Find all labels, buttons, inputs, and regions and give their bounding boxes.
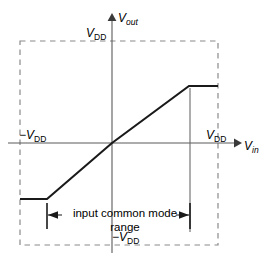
input-common-mode-range-label: input common mode range bbox=[61, 207, 189, 234]
vdd-right-subscript: DD bbox=[214, 134, 227, 144]
axis-arrow-right-icon bbox=[234, 139, 242, 148]
vdd-top-subscript: DD bbox=[94, 32, 107, 42]
vdd-top-symbol: V bbox=[86, 26, 94, 40]
vdd-bot-subscript: DD bbox=[127, 236, 140, 246]
vdd-left-sign: − bbox=[19, 128, 26, 142]
axis-arrow-up-icon bbox=[108, 13, 117, 21]
range-label-line-2: range bbox=[110, 221, 139, 233]
transfer-characteristic-figure: Vout VDD −VDD VDD Vin −VDD input common … bbox=[0, 0, 270, 264]
range-label-line-1: input common mode bbox=[73, 207, 177, 219]
vout-symbol: V bbox=[118, 11, 126, 25]
vin-symbol: V bbox=[244, 139, 252, 153]
vin-subscript: in bbox=[252, 145, 259, 155]
tick-label-vdd-right: VDD bbox=[206, 126, 227, 142]
dimension-arrow-left-icon bbox=[48, 211, 58, 219]
tick-label-vdd-left: −VDD bbox=[19, 126, 47, 142]
vdd-left-symbol: V bbox=[26, 128, 34, 142]
vout-subscript: out bbox=[126, 17, 138, 27]
tick-label-vdd-top: VDD bbox=[86, 24, 107, 40]
axis-label-vin: Vin bbox=[244, 137, 259, 153]
vdd-left-subscript: DD bbox=[34, 134, 47, 144]
vdd-right-symbol: V bbox=[206, 128, 214, 142]
axis-label-vout: Vout bbox=[118, 9, 138, 25]
